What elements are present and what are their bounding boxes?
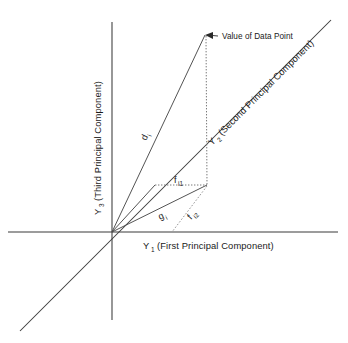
fi2-label: f i2	[185, 208, 200, 223]
data-point-arrow-icon	[205, 32, 213, 39]
y1-axis-label-subscript: 1	[151, 246, 155, 253]
fi1-label-subscript: i1	[178, 180, 183, 187]
y3-axis-label-name: (Third Principal Component)	[92, 81, 103, 201]
y1-axis-label: Y 1 (First Principal Component)	[143, 240, 274, 253]
fi1-label-symbol: f	[174, 175, 177, 185]
y1-axis-label-symbol: Y	[143, 240, 150, 251]
fi1-label: f i1	[174, 175, 183, 187]
fi2-dotted-line	[172, 186, 207, 232]
di-label: d i	[139, 131, 153, 143]
di-vector-line	[112, 35, 205, 232]
y3-axis-label-symbol: Y	[92, 208, 103, 215]
y3-axis-label: Y 3 (Third Principal Component)	[92, 81, 105, 215]
y3-axis-label-subscript: 3	[98, 203, 105, 207]
data-point-drop-line	[206, 36, 207, 186]
y2-axis-label-name: (Second Principal Component)	[216, 37, 316, 137]
y2-axis-label: Y 2 (Second Principal Component)	[206, 37, 317, 148]
diagram-canvas: Value of Data Point Y 1 (First Principal…	[0, 0, 348, 343]
y1-axis-label-name: (First Principal Component)	[157, 240, 274, 251]
principal-component-figure: Value of Data Point Y 1 (First Principal…	[0, 0, 348, 343]
data-point-label: Value of Data Point	[222, 32, 294, 41]
gi-label-subscript: i	[164, 214, 168, 221]
fi1-connector-line	[112, 185, 155, 232]
gi-label: g i	[156, 210, 168, 224]
